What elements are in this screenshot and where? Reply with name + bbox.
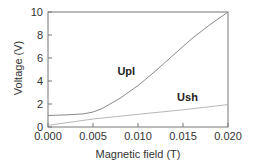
plot-frame xyxy=(48,12,228,127)
y-tick-label: 4 xyxy=(37,75,43,87)
series-line-ush xyxy=(48,105,228,126)
x-axis-label: Magnetic field (T) xyxy=(96,148,181,160)
series-line-upl xyxy=(48,12,228,116)
y-axis-label: Voltage (V) xyxy=(12,41,24,95)
y-tick-label: 2 xyxy=(37,98,43,110)
x-tick-label: 0.015 xyxy=(169,130,197,142)
x-tick-label: 0.005 xyxy=(79,130,107,142)
x-tick-label: 0.010 xyxy=(124,130,152,142)
curve-label-upl: Upl xyxy=(117,65,135,77)
curve-label-ush: Ush xyxy=(177,91,198,103)
chart: 0.0000.0050.0100.0150.0200246810UplUsh M… xyxy=(0,0,255,167)
y-tick-label: 10 xyxy=(31,6,43,18)
y-tick-label: 0 xyxy=(37,121,43,133)
x-tick-label: 0.020 xyxy=(214,130,242,142)
y-tick-label: 6 xyxy=(37,52,43,64)
y-tick-label: 8 xyxy=(37,29,43,41)
